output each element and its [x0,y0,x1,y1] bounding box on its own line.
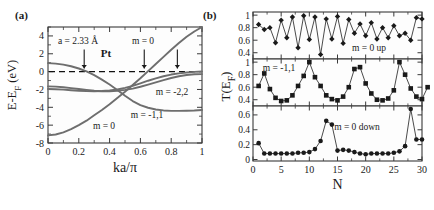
panel-a-xlabel: ka/π [113,160,137,175]
y-tick-label: 0 [245,155,250,165]
figure-root: (a) (b) 00.20.40.60.81420-2-4-6-8a = 2.3… [0,0,434,210]
panel-a-bandstructure: 00.20.40.60.81420-2-4-6-8a = 2.33 ÅPtm =… [0,0,217,210]
data-marker [352,67,357,72]
data-marker [414,137,419,142]
x-tick-label: 0.8 [165,146,178,157]
y-tick-label: 0.8 [238,23,250,33]
data-marker [273,96,278,101]
data-marker [403,144,408,149]
data-marker [268,87,273,92]
x-tick-label: 1 [200,146,205,157]
data-marker [313,75,318,80]
annotation-band-m0-lower: m = 0 [93,121,115,131]
data-marker [420,137,425,142]
data-marker [301,74,306,79]
data-marker [335,98,340,103]
data-marker [296,84,301,89]
data-marker [369,91,374,96]
data-marker [307,150,312,155]
panel-a-ylabel: E-EF (eV) [5,60,23,110]
data-marker [380,98,385,103]
y-tick-label: -8 [36,138,44,149]
data-marker [363,152,368,157]
data-marker [386,96,391,101]
data-marker [425,85,430,90]
data-marker [330,97,335,102]
x-tick-label: 0 [251,164,256,175]
annotation-material: Pt [101,47,112,59]
subpanel-label-0: m = 0 up [352,43,386,53]
data-marker [380,151,385,156]
data-marker [341,148,346,153]
data-marker [324,119,329,124]
y-tick-label: 0.2 [238,140,250,150]
data-marker [341,94,346,99]
data-marker [414,94,419,99]
data-marker [313,147,318,152]
data-marker [346,85,351,90]
x-tick-label: 20 [361,164,371,175]
data-marker [408,86,413,91]
data-marker [420,97,425,102]
data-marker [352,150,357,155]
data-marker [279,99,284,104]
x-tick-label: 30 [417,164,427,175]
x-tick-label: 25 [389,164,399,175]
data-marker [408,107,413,112]
data-marker [301,151,306,156]
y-tick-label: -6 [36,120,44,131]
y-tick-label: 0.4 [238,95,250,105]
y-tick-label: 1 [245,11,250,21]
data-marker [290,93,295,98]
data-marker [296,151,301,156]
x-tick-label: 10 [304,164,314,175]
data-marker [256,141,261,146]
data-marker [273,151,278,156]
data-marker [262,151,267,156]
data-marker [358,65,363,70]
annotation-band-m11: m = -1,1 [131,110,164,120]
panel-a-svg: 00.20.40.60.81420-2-4-6-8a = 2.33 ÅPtm =… [0,0,217,210]
x-tick-label: 5 [279,164,284,175]
data-marker [375,97,380,102]
data-marker [268,151,273,156]
panel-b-transmission: 0.40.60.81m = 0 up0.40.60.81m = -1,10510… [217,0,434,210]
data-marker [256,84,261,89]
y-tick-label: 0.6 [238,36,250,46]
data-marker [290,151,295,156]
y-tick-label: 2 [39,48,44,59]
y-tick-label: 0.6 [238,83,250,93]
x-tick-label: 0.6 [134,146,147,157]
data-marker [279,151,284,156]
panel-b-xlabel: N [332,177,342,192]
x-tick-label: 15 [333,164,343,175]
subpanel-label-1: m = -1,1 [263,63,296,73]
data-marker [363,81,368,86]
data-marker [285,98,290,103]
y-tick-label: 0.6 [238,110,250,120]
x-tick-label: 0.4 [103,146,116,157]
data-marker [397,149,402,154]
data-marker [386,151,391,156]
panel-b-svg: 0.40.60.81m = 0 up0.40.60.81m = -1,10510… [217,0,434,210]
data-marker [403,72,408,77]
data-marker [346,148,351,153]
x-tick-label: 0 [46,146,51,157]
data-marker [318,139,323,144]
y-tick-label: 0.4 [238,125,250,135]
x-tick-label: 0.2 [73,146,86,157]
y-tick-label: -4 [36,102,44,113]
annotation-band-m0-upper: m = 0 [132,36,154,46]
data-marker [392,151,397,156]
data-marker [335,148,340,153]
data-marker [369,151,374,156]
data-marker [307,60,312,65]
data-marker [375,151,380,156]
data-marker [358,151,363,156]
data-marker [397,60,402,65]
annotation-lattice-constant: a = 2.33 Å [58,35,98,46]
y-tick-label: -2 [36,84,44,95]
annotation-band-m22: m = -2,2 [156,87,189,97]
y-tick-label: 1 [245,58,250,68]
panel-b-ylabel: T(EF) [218,72,237,102]
